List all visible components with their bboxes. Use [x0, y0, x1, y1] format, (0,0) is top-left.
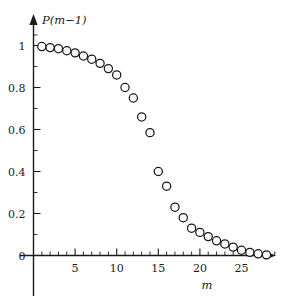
y-tick-label: 0.4: [8, 166, 26, 179]
data-point: [129, 94, 137, 102]
data-point: [63, 47, 71, 55]
data-point: [196, 228, 204, 236]
y-axis-major-ticks: [34, 46, 41, 214]
x-tick-label: 25: [235, 262, 249, 275]
data-point: [229, 243, 237, 251]
data-point: [121, 83, 129, 91]
data-point-series: [38, 42, 271, 259]
x-tick-label: 5: [72, 262, 79, 275]
data-point: [96, 59, 104, 67]
data-point: [154, 167, 162, 175]
data-point: [38, 42, 46, 50]
y-tick-label: 1: [19, 40, 26, 53]
data-point: [187, 224, 195, 232]
data-point: [104, 65, 112, 73]
data-point: [212, 237, 220, 245]
data-point: [79, 52, 87, 60]
data-point: [113, 71, 121, 79]
data-point: [46, 44, 54, 52]
x-axis-title: m: [202, 278, 213, 292]
data-point: [88, 55, 96, 63]
y-tick-label: 0: [19, 250, 26, 263]
data-point: [246, 248, 254, 256]
data-point: [163, 182, 171, 190]
y-tick-label: 0.2: [8, 208, 26, 221]
data-point: [138, 113, 146, 121]
data-point: [179, 214, 187, 222]
y-axis-title: P(m−1): [41, 13, 87, 27]
y-tick-label: 0.8: [8, 82, 26, 95]
chart-figure: 510152025 00.20.40.60.81 P(m−1) m: [0, 0, 281, 301]
y-axis-tick-labels: 00.20.40.60.81: [8, 40, 26, 263]
y-axis-arrowhead: [29, 14, 37, 25]
data-point: [262, 251, 270, 259]
data-point: [237, 246, 245, 254]
scatter-plot: 510152025 00.20.40.60.81 P(m−1) m: [0, 0, 281, 301]
data-point: [71, 49, 79, 57]
y-axis-group: [29, 14, 37, 296]
x-tick-label: 20: [193, 262, 207, 275]
x-tick-label: 10: [110, 262, 124, 275]
data-point: [171, 203, 179, 211]
data-point: [254, 250, 262, 258]
data-point: [221, 240, 229, 248]
x-axis-tick-labels: 510152025: [72, 262, 249, 275]
y-tick-label: 0.6: [8, 124, 26, 137]
x-tick-label: 15: [151, 262, 165, 275]
data-point: [204, 233, 212, 241]
data-point: [54, 45, 62, 53]
data-point: [146, 129, 154, 137]
